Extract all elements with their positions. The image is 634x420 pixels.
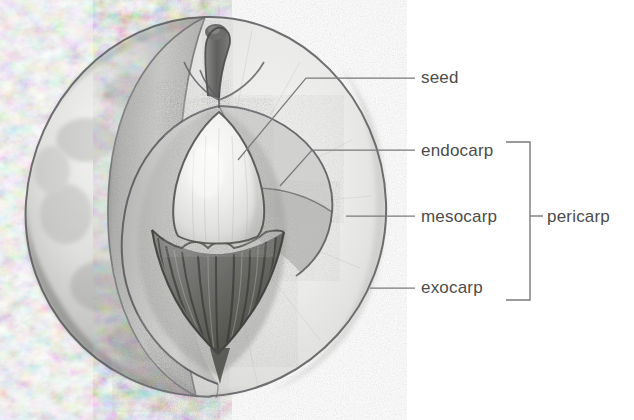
seed-highlight: [188, 146, 224, 198]
pericarp-bracket: [506, 142, 543, 300]
label-endocarp: endocarp: [421, 141, 494, 161]
bracket-span: [506, 142, 530, 300]
fruit-illustration: [26, 17, 387, 398]
fruit-cross-section-figure: [0, 0, 634, 420]
label-pericarp: pericarp: [547, 207, 610, 227]
label-mesocarp: mesocarp: [421, 207, 497, 227]
label-exocarp: exocarp: [421, 278, 483, 298]
label-seed: seed: [421, 68, 459, 88]
diagram-page: seed endocarp mesocarp exocarp pericarp: [0, 0, 634, 420]
